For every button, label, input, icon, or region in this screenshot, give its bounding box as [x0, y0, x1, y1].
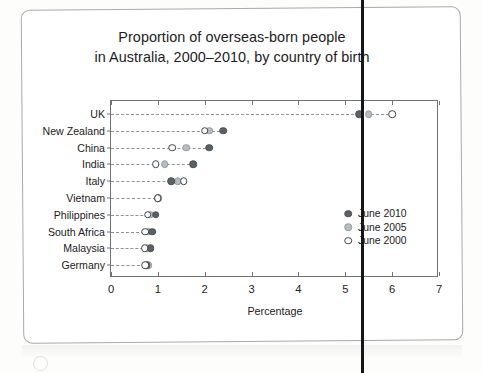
x-axis-tick-label: 4	[295, 283, 301, 295]
legend-marker-june-2005	[343, 223, 355, 232]
y-axis-tick	[107, 197, 111, 198]
x-axis-tick-label: 1	[155, 283, 161, 295]
legend-label: June 2000	[358, 235, 407, 246]
x-axis-tick	[392, 101, 393, 105]
plot-area: 01234567UKNew ZealandChinaIndiaItalyViet…	[110, 100, 438, 277]
x-axis-tick-label: 6	[389, 283, 395, 295]
x-axis-tick	[111, 101, 112, 105]
category-leader-line	[111, 164, 190, 165]
y-axis-category-label: Philippines	[54, 209, 105, 221]
x-axis-tick	[205, 272, 206, 276]
y-axis-tick	[107, 214, 111, 215]
data-point	[141, 245, 149, 253]
chart-title-line-1: Proportion of overseas-born people	[22, 27, 442, 47]
y-axis-category-label: Malaysia	[63, 242, 105, 254]
category-leader-line	[111, 148, 206, 149]
x-axis-tick	[298, 272, 299, 276]
x-axis-tick	[345, 272, 346, 276]
y-axis-tick	[107, 181, 111, 182]
data-point	[154, 194, 162, 202]
data-point	[220, 127, 228, 135]
y-axis-tick	[107, 147, 111, 148]
category-leader-line	[111, 114, 389, 115]
chart-title: Proportion of overseas-born people in Au…	[22, 27, 442, 68]
data-point	[161, 161, 169, 169]
x-axis-tick	[345, 101, 346, 105]
y-axis-category-label: South Africa	[48, 226, 105, 238]
page-edge-shadow	[22, 345, 462, 359]
legend-label: June 2010	[358, 208, 407, 219]
legend-item: June 2005	[343, 221, 407, 235]
chart-title-line-2: in Australia, 2000–2010, by country of b…	[22, 47, 442, 67]
legend-item: June 2000	[343, 234, 407, 248]
y-axis-tick	[107, 114, 111, 115]
data-point	[388, 110, 396, 118]
x-axis-tick	[252, 101, 253, 105]
data-point	[152, 161, 160, 169]
page-corner-mark	[33, 356, 48, 371]
chart-legend: June 2010 June 2005 June 2000	[343, 207, 407, 248]
y-axis-category-label: Germany	[61, 259, 105, 271]
x-axis-tick	[439, 272, 440, 276]
x-axis-tick	[158, 272, 159, 276]
data-point	[148, 228, 156, 236]
data-point	[182, 144, 190, 152]
data-point	[152, 211, 160, 219]
x-axis-tick	[439, 101, 440, 105]
legend-label: June 2005	[358, 222, 407, 233]
data-point	[201, 127, 209, 135]
y-axis-tick	[107, 164, 111, 165]
x-axis-tick	[205, 101, 206, 105]
x-axis-title: Percentage	[111, 305, 439, 317]
data-point	[365, 110, 373, 118]
legend-marker-june-2000	[343, 236, 355, 245]
x-axis-tick	[298, 101, 299, 105]
y-axis-category-label: UK	[90, 108, 105, 120]
x-axis-tick	[158, 101, 159, 105]
category-leader-line	[111, 198, 156, 199]
data-point	[141, 228, 149, 236]
y-axis-tick	[107, 265, 111, 266]
book-spine-line	[361, 0, 364, 373]
data-point	[167, 177, 175, 185]
x-axis-tick	[392, 272, 393, 276]
y-axis-category-label: China	[77, 142, 105, 154]
legend-marker-june-2010	[343, 209, 355, 218]
category-leader-line	[111, 265, 145, 266]
x-axis-tick	[111, 272, 112, 276]
x-axis-tick-label: 3	[248, 283, 254, 295]
y-axis-category-label: India	[82, 158, 105, 170]
x-axis-tick-label: 2	[202, 283, 208, 295]
y-axis-tick	[107, 248, 111, 249]
legend-item: June 2010	[343, 207, 407, 221]
y-axis-category-label: Vietnam	[66, 192, 105, 204]
x-axis-tick-label: 7	[436, 283, 442, 295]
data-point	[189, 161, 197, 169]
y-axis-tick	[107, 130, 111, 131]
data-point	[168, 144, 176, 152]
data-point	[141, 261, 149, 269]
data-point	[206, 144, 214, 152]
x-axis-tick-label: 5	[342, 283, 348, 295]
data-point	[180, 177, 188, 185]
y-axis-category-label: Italy	[86, 175, 105, 187]
x-axis-tick	[252, 272, 253, 276]
x-axis-tick-label: 0	[108, 283, 114, 295]
y-axis-tick	[107, 231, 111, 232]
data-point	[144, 211, 152, 219]
y-axis-category-label: New Zealand	[43, 125, 105, 137]
